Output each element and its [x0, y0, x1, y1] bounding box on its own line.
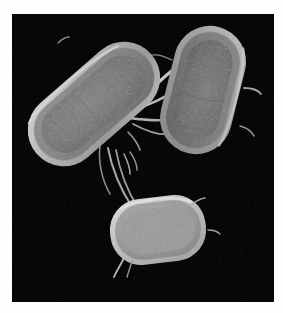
- plate-caption: [0, 302, 283, 313]
- micrograph-canvas: [12, 14, 274, 302]
- micrograph-plate: [12, 14, 274, 302]
- global-grain-overlay: [12, 14, 274, 302]
- sem-micrograph-figure: [0, 0, 283, 313]
